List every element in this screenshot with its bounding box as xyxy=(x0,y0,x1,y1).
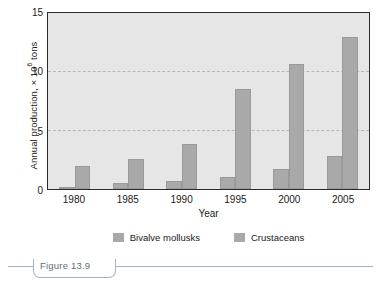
grid-line xyxy=(48,71,369,72)
figure-container: Annual production, × 106 tons 051015 198… xyxy=(0,0,381,284)
bar-crustaceans xyxy=(182,144,198,189)
legend-swatch-icon xyxy=(234,233,245,242)
plot-area xyxy=(47,12,370,190)
x-axis-tick-label: 1980 xyxy=(63,194,85,205)
legend-item: Crustaceans xyxy=(234,232,304,243)
legend-label: Bivalve mollusks xyxy=(130,232,200,243)
chart-legend: Bivalve mollusksCrustaceans xyxy=(47,232,370,243)
x-axis-tick-label: 2005 xyxy=(332,194,354,205)
grid-line xyxy=(48,130,369,131)
bar-bivalve-mollusks xyxy=(220,177,236,189)
bar-crustaceans xyxy=(342,37,358,189)
figure-caption-bar: Figure 13.9 xyxy=(0,258,381,284)
caption-rule-left xyxy=(8,266,33,267)
legend-label: Crustaceans xyxy=(251,232,304,243)
bar-bivalve-mollusks xyxy=(166,181,182,189)
bar-crustaceans xyxy=(235,89,251,189)
y-axis-tick-label: 15 xyxy=(21,7,43,18)
bar-group xyxy=(166,13,197,189)
y-axis-tick-label: 10 xyxy=(21,66,43,77)
bar-group xyxy=(273,13,304,189)
legend-item: Bivalve mollusks xyxy=(113,232,200,243)
y-axis-tick-label: 5 xyxy=(21,125,43,136)
bar-group xyxy=(220,13,251,189)
bar-bivalve-mollusks xyxy=(327,156,343,189)
x-axis-title: Year xyxy=(47,208,370,219)
figure-caption-label: Figure 13.9 xyxy=(40,260,90,271)
caption-rule-right xyxy=(116,266,373,267)
x-axis-tick-label: 1995 xyxy=(224,194,246,205)
bar-crustaceans xyxy=(128,159,144,189)
x-axis-tick-label: 2000 xyxy=(278,194,300,205)
bar-bivalve-mollusks xyxy=(59,187,75,189)
x-axis-tick-label: 1990 xyxy=(170,194,192,205)
y-axis-ticks: 051015 xyxy=(19,0,43,284)
legend-swatch-icon xyxy=(113,233,124,242)
x-axis-ticks: 198019851990199520002005 xyxy=(47,194,370,208)
bar-crustaceans xyxy=(289,64,305,189)
bar-crustaceans xyxy=(75,166,91,189)
bar-bivalve-mollusks xyxy=(273,169,289,189)
plot-inner xyxy=(48,13,369,189)
bar-bivalve-mollusks xyxy=(113,183,129,189)
bar-group xyxy=(113,13,144,189)
bar-group xyxy=(59,13,90,189)
y-axis-tick-label: 0 xyxy=(21,185,43,196)
x-axis-tick-label: 1985 xyxy=(117,194,139,205)
bar-group xyxy=(327,13,358,189)
